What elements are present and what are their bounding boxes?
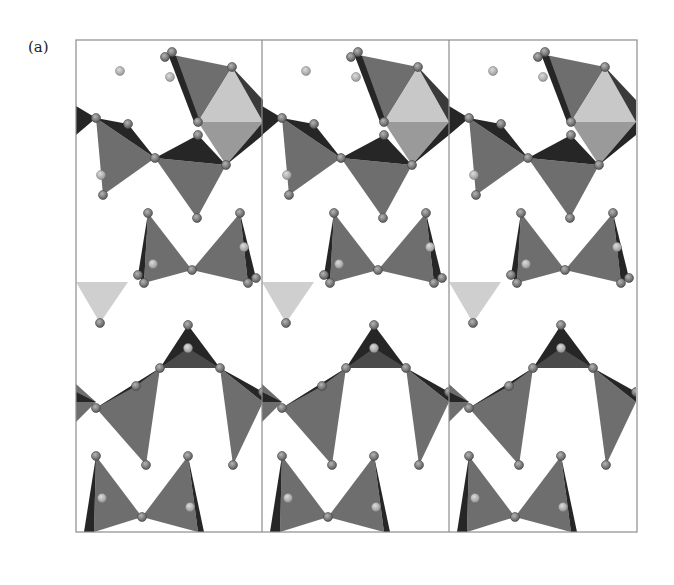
unit-cell-3 [439, 48, 641, 533]
unit-cell-2 [252, 48, 454, 533]
crystal-structure-diagram [0, 0, 674, 585]
cell-borders [76, 40, 637, 532]
unit-cell-1 [66, 48, 268, 533]
